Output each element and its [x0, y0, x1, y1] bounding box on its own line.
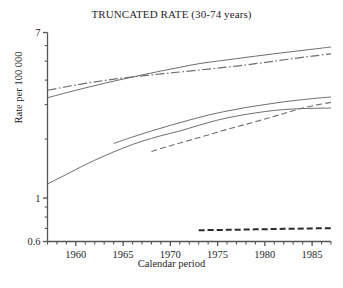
x-tick-label: 1960 — [65, 249, 86, 260]
x-tick-label: 1980 — [254, 249, 275, 260]
axes — [48, 33, 332, 242]
series-line-middle-solid-partial — [114, 97, 331, 143]
axis-ticks — [43, 33, 331, 247]
series-line-middle-solid-full — [48, 108, 332, 184]
data-series — [48, 47, 332, 230]
series-line-upper-solid — [48, 47, 332, 98]
axis-tick-labels: 710.6196019651970197519801985 — [27, 27, 322, 259]
series-line-upper-dashdot — [48, 54, 332, 90]
y-tick-label: 0.6 — [27, 236, 40, 247]
x-tick-label: 1975 — [207, 249, 228, 260]
series-line-bottom-dashed — [199, 228, 331, 230]
plot-area: 710.6196019651970197519801985 — [0, 0, 343, 288]
x-tick-label: 1965 — [113, 249, 134, 260]
y-tick-label: 7 — [35, 27, 40, 38]
chart-figure: TRUNCATED RATE (30-74 years) Rate per 10… — [0, 0, 343, 288]
series-line-middle-dashed — [151, 102, 331, 151]
x-tick-label: 1970 — [160, 249, 181, 260]
x-tick-label: 1985 — [302, 249, 323, 260]
y-tick-label: 1 — [35, 193, 40, 204]
